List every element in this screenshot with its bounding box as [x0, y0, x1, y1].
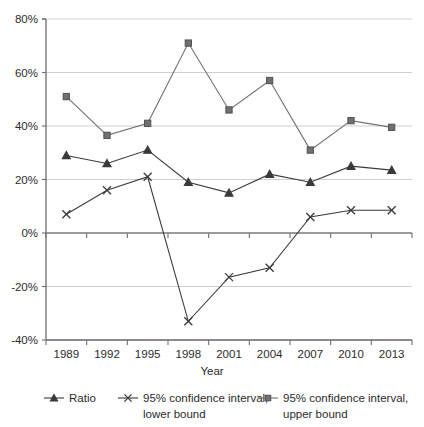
y-tick-label: 0%: [21, 227, 38, 239]
x-tick-label: 2004: [257, 348, 283, 360]
marker-x: [103, 186, 111, 194]
legend-item-ci-lower[interactable]: 95% confidence interval,lower bound: [118, 392, 268, 420]
line-chart-plot: 80%60%40%20%0%-20%-40% 19891992199519982…: [0, 0, 424, 427]
marker-x: [266, 264, 274, 272]
x-tick-label: 2007: [298, 348, 324, 360]
chart-legend: Ratio95% confidence interval,lower bound…: [44, 392, 408, 420]
marker-x: [62, 210, 70, 218]
y-tick-label: 40%: [15, 120, 38, 132]
y-tick-label: -40%: [11, 334, 38, 346]
marker-square: [63, 93, 69, 99]
marker-triangle: [144, 146, 152, 153]
legend-item-ratio[interactable]: Ratio: [44, 392, 96, 404]
x-tick-label: 2001: [216, 348, 242, 360]
x-axis-tick-labels: 198919921995199820012004200720102013: [54, 348, 405, 360]
x-tick-label: 1998: [176, 348, 202, 360]
marker-square: [348, 118, 354, 124]
marker-triangle: [62, 151, 70, 158]
y-tick-label: 60%: [15, 67, 38, 79]
x-tick-label: 2013: [379, 348, 405, 360]
marker-square: [267, 77, 273, 83]
x-tick-label: 1989: [54, 348, 80, 360]
gridlines: [46, 19, 412, 340]
x-tick-label: 2010: [338, 348, 364, 360]
x-axis-title: Year: [200, 365, 223, 377]
legend-label: 95% confidence interval,: [143, 392, 268, 404]
y-tick-label: 20%: [15, 174, 38, 186]
legend-label-line2: lower bound: [143, 408, 206, 420]
legend-label: 95% confidence interval,: [283, 392, 408, 404]
marker-square: [145, 120, 151, 126]
x-axis-ticks: [46, 233, 412, 345]
series-line: [66, 150, 391, 193]
legend-label-line2: upper bound: [283, 408, 348, 420]
marker-square: [226, 107, 232, 113]
x-tick-label: 1995: [135, 348, 161, 360]
legend-label: Ratio: [69, 392, 96, 404]
marker-triangle: [266, 170, 274, 177]
series-line: [66, 43, 391, 150]
marker-x: [225, 273, 233, 281]
data-series: [62, 40, 395, 325]
marker-triangle: [347, 162, 355, 169]
marker-square: [185, 40, 191, 46]
marker-square: [104, 132, 110, 138]
x-tick-label: 1992: [94, 348, 120, 360]
marker-x: [184, 317, 192, 325]
marker-square: [307, 147, 313, 153]
chart-container: 80%60%40%20%0%-20%-40% 19891992199519982…: [0, 0, 424, 427]
series-line: [66, 177, 391, 321]
y-axis-tick-labels: 80%60%40%20%0%-20%-40%: [11, 13, 38, 346]
y-tick-label: 80%: [15, 13, 38, 25]
marker-square: [389, 124, 395, 130]
marker-square: [265, 395, 270, 400]
y-tick-label: -20%: [11, 281, 38, 293]
legend-item-ci-upper[interactable]: 95% confidence interval,upper bound: [258, 392, 408, 420]
series-ci-upper: [63, 40, 395, 153]
